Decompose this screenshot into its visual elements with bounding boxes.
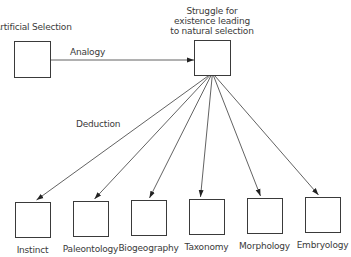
embryology-arrow — [215, 76, 319, 195]
biogeography-label: Biogeography — [118, 243, 178, 253]
struggle-box — [195, 41, 231, 76]
artificial-selection-box — [15, 42, 51, 78]
paleontology-label: Paleontology — [63, 244, 118, 254]
paleontology-arrow — [95, 76, 210, 199]
embryology-box — [306, 198, 341, 233]
paleontology-box — [74, 202, 109, 237]
embryology-label: Embryology — [297, 240, 349, 250]
morphology-box — [248, 199, 283, 234]
biogeography-arrow — [150, 76, 211, 198]
instinct-box — [16, 203, 51, 238]
morphology-label: Morphology — [239, 241, 290, 251]
taxonomy-box — [190, 200, 225, 235]
morphology-arrow — [214, 76, 261, 196]
diagram-canvas — [0, 0, 351, 257]
instinct-label: Instinct — [17, 245, 49, 255]
taxonomy-label: Taxonomy — [185, 242, 229, 252]
instinct-arrow — [37, 76, 209, 200]
taxonomy-arrow — [201, 76, 213, 197]
struggle-label-line: to natural selection — [170, 26, 253, 36]
deduction-label: Deduction — [76, 119, 120, 129]
analogy-label: Analogy — [70, 47, 105, 57]
struggle-label-line: Struggle for — [187, 6, 238, 16]
struggle-label-line: existence leading — [174, 16, 250, 26]
artificial-selection-label: Artificial Selection — [0, 22, 72, 32]
biogeography-box — [132, 201, 167, 236]
